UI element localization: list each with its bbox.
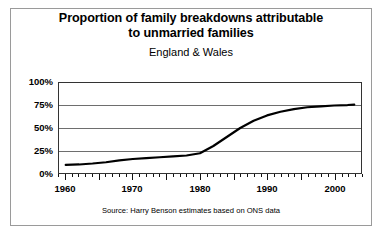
chart-source-note: Source: Harry Benson estimates based on …: [10, 206, 372, 216]
chart-title-line-1: Proportion of family breakdowns attribut…: [10, 11, 372, 26]
x-tick-1996: [308, 174, 309, 177]
x-tick-1990: [267, 174, 268, 180]
x-tick-2003: [355, 174, 356, 177]
x-tick-1973: [153, 174, 154, 177]
y-tick-label-75: 75%: [1, 100, 53, 110]
x-tick-1994: [294, 174, 295, 177]
x-tick-1999: [328, 174, 329, 177]
x-tick-1992: [281, 174, 282, 177]
chart-figure: Proportion of family breakdowns attribut…: [0, 0, 382, 237]
x-tick-1993: [288, 174, 289, 177]
x-tick-1965: [99, 174, 100, 180]
x-tick-1986: [240, 174, 241, 177]
x-tick-1966: [105, 174, 106, 177]
x-tick-1971: [139, 174, 140, 177]
x-tick-1978: [186, 174, 187, 177]
x-tick-1997: [315, 174, 316, 177]
x-tick-1967: [112, 174, 113, 177]
chart-subtitle: England & Wales: [10, 45, 372, 59]
x-tick-1998: [321, 174, 322, 177]
y-tick-label-25: 25%: [1, 146, 53, 156]
y-tick-label-0: 0%: [1, 169, 53, 179]
x-tick-1970: [132, 174, 133, 180]
x-tick-1977: [180, 174, 181, 177]
x-tick-1982: [213, 174, 214, 177]
x-tick-1976: [173, 174, 174, 177]
y-tick-label-50: 50%: [1, 123, 53, 133]
x-tick-1983: [220, 174, 221, 177]
x-tick-1979: [193, 174, 194, 177]
chart-title: Proportion of family breakdowns attribut…: [10, 11, 372, 41]
x-tick-1988: [254, 174, 255, 177]
x-tick-label-1980: 1980: [180, 183, 220, 194]
x-tick-1980: [200, 174, 201, 180]
x-tick-1985: [234, 174, 235, 180]
x-tick-1969: [126, 174, 127, 177]
x-tick-1975: [166, 174, 167, 180]
x-tick-1968: [119, 174, 120, 177]
x-tick-2001: [342, 174, 343, 177]
x-tick-1963: [85, 174, 86, 177]
x-tick-2002: [348, 174, 349, 177]
x-tick-1974: [159, 174, 160, 177]
x-tick-1962: [78, 174, 79, 177]
x-tick-1961: [72, 174, 73, 177]
x-axis-labels: 1960 1970 1980 1990 2000: [58, 183, 362, 197]
plot-area: [58, 82, 362, 174]
data-line-series: [59, 83, 361, 173]
x-tick-1972: [146, 174, 147, 177]
chart-title-line-2: to unmarried families: [10, 26, 372, 41]
x-tick-1959: [58, 174, 59, 177]
x-tick-2004: [362, 174, 363, 177]
x-tick-1984: [227, 174, 228, 177]
x-tick-label-2000: 2000: [315, 183, 355, 194]
x-tick-1981: [207, 174, 208, 177]
x-tick-1964: [92, 174, 93, 177]
x-tick-label-1990: 1990: [247, 183, 287, 194]
x-tick-1991: [274, 174, 275, 177]
x-tick-1987: [247, 174, 248, 177]
y-axis-labels: 100% 75% 50% 25% 0%: [0, 0, 53, 237]
x-tick-2000: [335, 174, 336, 180]
x-tick-label-1970: 1970: [112, 183, 152, 194]
x-tick-1989: [261, 174, 262, 177]
x-tick-1960: [65, 174, 66, 180]
y-tick-label-100: 100%: [1, 77, 53, 87]
x-axis-ticks: [58, 174, 362, 181]
x-tick-1995: [301, 174, 302, 180]
x-tick-label-1960: 1960: [45, 183, 85, 194]
